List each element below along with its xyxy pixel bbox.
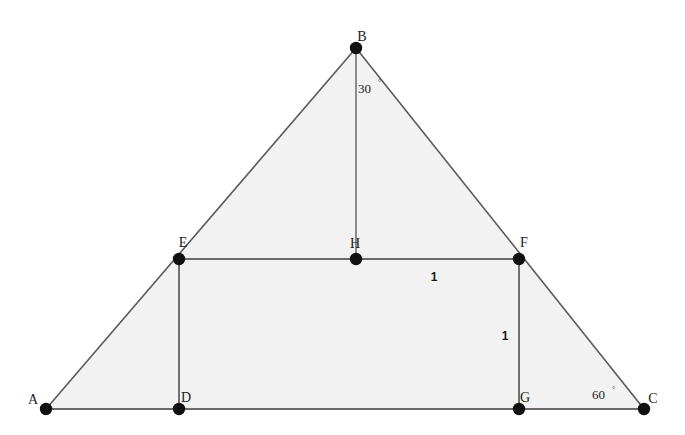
label-point-f: F <box>520 235 528 250</box>
point-f <box>513 253 525 265</box>
point-e <box>173 253 185 265</box>
degree-symbol-c: ° <box>612 385 615 394</box>
label-point-g: G <box>520 390 530 405</box>
point-a <box>40 403 52 415</box>
geometry-figure: A B C D E F G H 30 ° 60 ° 1 1 <box>0 0 685 435</box>
angle-label-b: 30 <box>358 81 371 96</box>
label-point-a: A <box>28 392 39 407</box>
point-h <box>350 253 362 265</box>
triangle-abc-fill <box>46 48 644 409</box>
length-label-fg: 1 <box>502 329 509 343</box>
label-point-c: C <box>648 391 657 406</box>
label-point-e: E <box>179 235 188 250</box>
length-label-hf: 1 <box>431 270 438 284</box>
label-point-d: D <box>181 390 191 405</box>
label-point-b: B <box>357 29 366 44</box>
angle-label-c: 60 <box>592 387 605 402</box>
degree-symbol-b: ° <box>378 78 381 87</box>
label-point-h: H <box>350 236 360 251</box>
geometry-diagram-canvas: A B C D E F G H 30 ° 60 ° 1 1 <box>0 0 685 435</box>
